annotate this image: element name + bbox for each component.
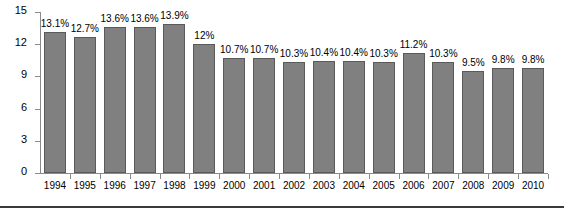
y-axis-line	[40, 12, 41, 173]
bar-value-label: 10.7%	[248, 44, 280, 56]
y-axis-tick-label: 6	[21, 101, 27, 113]
x-axis-label: 2000	[218, 180, 250, 192]
y-axis-tick: 15	[35, 12, 40, 13]
y-axis-tick: 0	[35, 173, 40, 174]
bar	[432, 62, 454, 173]
y-axis-tick-label: 3	[21, 133, 27, 145]
bar	[313, 61, 335, 173]
bar-value-label: 10.4%	[308, 47, 340, 59]
bar-chart: Percent 03691215 13.1%12.7%13.6%13.6%13.…	[0, 0, 564, 213]
bar-value-label: 10.4%	[338, 47, 370, 59]
x-axis-label: 2006	[398, 180, 430, 192]
bar-value-label: 9.8%	[487, 54, 519, 66]
bar	[74, 37, 96, 173]
y-axis-tick-label: 0	[21, 165, 27, 177]
bar-value-label: 11.2%	[398, 39, 430, 51]
bar	[343, 61, 365, 173]
y-axis-tick: 6	[35, 109, 40, 110]
x-axis-tick	[189, 174, 190, 179]
x-axis-tick	[428, 174, 429, 179]
y-axis-tick-label: 12	[15, 36, 27, 48]
bar-value-label: 10.3%	[368, 48, 400, 60]
bar	[373, 62, 395, 173]
bar-value-label: 13.1%	[39, 18, 71, 30]
x-axis-tick	[369, 174, 370, 179]
x-axis-tick	[548, 174, 549, 179]
x-axis-label: 2009	[487, 180, 519, 192]
x-axis-label: 2005	[368, 180, 400, 192]
x-axis-tick	[249, 174, 250, 179]
x-axis-label: 1995	[69, 180, 101, 192]
x-axis-label: 2004	[338, 180, 370, 192]
bar	[104, 27, 126, 173]
bar	[283, 62, 305, 173]
x-axis-tick	[458, 174, 459, 179]
y-axis-tick: 3	[35, 141, 40, 142]
bar-value-label: 12%	[188, 30, 220, 42]
y-axis-tick-label: 15	[15, 4, 27, 16]
x-axis-label: 2008	[457, 180, 489, 192]
footer-rule	[0, 206, 564, 208]
bar-value-label: 13.9%	[158, 10, 190, 22]
x-axis-tick	[309, 174, 310, 179]
x-axis-tick	[70, 174, 71, 179]
bar-value-label: 9.8%	[517, 54, 549, 66]
bar-value-label: 13.6%	[129, 13, 161, 25]
bar	[163, 24, 185, 173]
bar	[44, 32, 66, 173]
bar	[253, 58, 275, 173]
x-axis-label: 2002	[278, 180, 310, 192]
bar	[223, 58, 245, 173]
x-axis-line	[40, 173, 548, 174]
x-axis-tick	[219, 174, 220, 179]
x-axis-tick	[279, 174, 280, 179]
x-axis-tick	[339, 174, 340, 179]
x-axis-label: 2010	[517, 180, 549, 192]
x-axis-label: 1998	[158, 180, 190, 192]
bar-value-label: 10.3%	[427, 48, 459, 60]
bar-value-label: 10.3%	[278, 48, 310, 60]
x-axis-label: 1997	[129, 180, 161, 192]
bar	[522, 68, 544, 173]
x-axis-tick	[518, 174, 519, 179]
x-axis-label: 2007	[427, 180, 459, 192]
x-axis-label: 2001	[248, 180, 280, 192]
plot-area: 03691215 13.1%12.7%13.6%13.6%13.9%12%10.…	[40, 0, 549, 213]
x-axis-label: 1994	[39, 180, 71, 192]
y-axis-tick-label: 9	[21, 68, 27, 80]
x-axis-tick	[130, 174, 131, 179]
bar-value-label: 10.7%	[218, 44, 250, 56]
x-axis-label: 1996	[99, 180, 131, 192]
y-axis-tick: 9	[35, 76, 40, 77]
x-axis-label: 1999	[188, 180, 220, 192]
bar	[462, 71, 484, 173]
bar-value-label: 9.5%	[457, 57, 489, 69]
x-axis-label: 2003	[308, 180, 340, 192]
y-axis-tick: 12	[35, 44, 40, 45]
x-axis-tick	[100, 174, 101, 179]
bar-value-label: 12.7%	[69, 23, 101, 35]
bar	[403, 53, 425, 173]
x-axis-tick	[488, 174, 489, 179]
bar-value-label: 13.6%	[99, 13, 131, 25]
x-axis-tick	[399, 174, 400, 179]
bar	[193, 44, 215, 173]
bar	[134, 27, 156, 173]
x-axis-tick	[160, 174, 161, 179]
bar	[492, 68, 514, 173]
